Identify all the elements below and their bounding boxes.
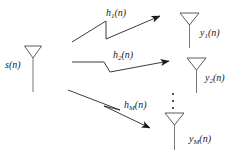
channel-diagram: s(n) h1(n) h2(n) hM(n) y1(n) y2(n) yM(n) (0, 0, 234, 165)
antenna-icon-y2 (187, 58, 206, 93)
receiver-label-y1: y1(n) (200, 28, 220, 40)
channel-path-h1 (72, 16, 160, 42)
receiver-label-y2: y2(n) (205, 73, 225, 85)
source-label-arg: (n) (9, 59, 21, 70)
receiver-label-yM-arg: (n) (199, 133, 211, 144)
channel-label-h2: h2(n) (113, 50, 133, 62)
antenna-icon-source (25, 46, 42, 92)
channel-path-h2 (72, 61, 169, 72)
vertical-ellipsis-icon (172, 93, 174, 114)
receiver-label-y1-arg: (n) (208, 27, 220, 38)
antenna-icon-yM (165, 113, 184, 150)
source-label: s(n) (5, 60, 21, 70)
channel-label-hM: hM(n) (124, 100, 147, 112)
channel-label-h1: h1(n) (106, 8, 126, 20)
channel-label-h2-arg: (n) (122, 49, 134, 60)
antenna-icon-y1 (180, 13, 199, 48)
channel-label-h1-arg: (n) (115, 7, 127, 18)
receiver-label-y2-arg: (n) (213, 72, 225, 83)
receiver-label-yM: yM(n) (189, 134, 211, 146)
channel-label-hM-arg: (n) (135, 99, 147, 110)
